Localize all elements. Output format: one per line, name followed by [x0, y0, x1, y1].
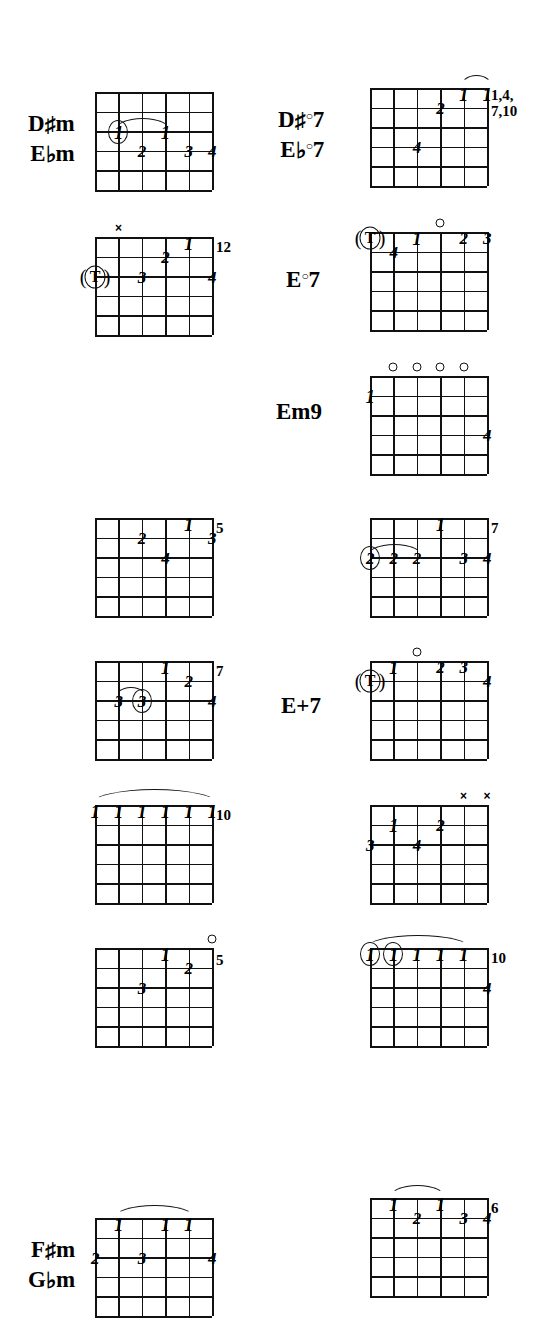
finger-number: 3	[460, 1210, 468, 1227]
finger-number: 1	[389, 1194, 398, 1213]
chord-diagram-fsharp-m-6: 611234	[0, 0, 543, 1326]
fretboard-grid	[370, 1198, 487, 1296]
fret-line	[370, 1218, 487, 1220]
finger-number: 4	[483, 1210, 491, 1227]
fret-position-number: 6	[491, 1201, 499, 1216]
fret-line	[370, 1257, 487, 1259]
fret-line	[370, 1237, 487, 1239]
string-line	[370, 1198, 372, 1296]
fret-line	[370, 1276, 487, 1278]
fret-line	[370, 1296, 487, 1298]
finger-number: 2	[413, 1210, 421, 1227]
finger-number: 1	[436, 1194, 445, 1213]
chord-chart-page: D♯mE♭m1123412×1234()T5123471233410111111…	[0, 0, 543, 1326]
